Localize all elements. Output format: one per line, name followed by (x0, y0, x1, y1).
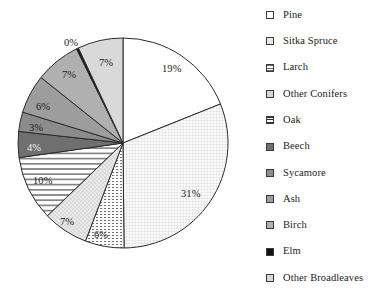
legend-label: Sycamore (283, 168, 326, 179)
slice-label-birch: 7% (62, 70, 76, 81)
legend-label: Sitka Spruce (283, 36, 338, 47)
legend-label: Pine (283, 10, 302, 21)
pie-chart: 19%31%6%7%10%4%3%6%7%0%7% PineSitka Spru… (0, 0, 379, 294)
swatch-ash-icon (266, 195, 274, 203)
legend-swatch-fill (267, 91, 273, 97)
legend-swatch-fill (267, 222, 273, 228)
slice-label-pine: 19% (162, 64, 182, 75)
slice-label-sitka-spruce: 31% (181, 189, 201, 200)
legend-swatch-fill (267, 38, 273, 44)
legend-item-oak[interactable]: Oak (266, 113, 301, 127)
swatch-sycamore-icon (266, 169, 274, 177)
legend-swatch-fill (267, 249, 273, 255)
slice-label-beech: 4% (27, 143, 41, 154)
legend-swatch-fill (267, 65, 273, 71)
legend-label: Larch (283, 62, 308, 73)
legend-item-sycamore[interactable]: Sycamore (266, 166, 326, 180)
legend-swatch-fill (267, 12, 273, 18)
swatch-other-broadleaves-icon (266, 274, 274, 282)
swatch-birch-icon (266, 221, 274, 229)
legend-item-sitka-spruce[interactable]: Sitka Spruce (266, 34, 338, 48)
chart-legend: PineSitka SpruceLarchOther ConifersOakBe… (266, 0, 379, 294)
slice-label-larch: 6% (94, 230, 108, 241)
legend-swatch-fill (267, 117, 273, 123)
legend-swatch-fill (267, 275, 273, 281)
swatch-elm-icon (266, 248, 274, 256)
slice-label-ash: 6% (36, 102, 50, 113)
legend-item-larch[interactable]: Larch (266, 61, 308, 75)
legend-item-beech[interactable]: Beech (266, 140, 310, 154)
slice-label-sycamore: 3% (29, 123, 43, 134)
legend-label: Elm (283, 246, 301, 257)
swatch-beech-icon (266, 143, 274, 151)
legend-item-other-broadleaves[interactable]: Other Broadleaves (266, 271, 363, 285)
legend-label: Other Broadleaves (283, 273, 363, 284)
legend-label: Other Conifers (283, 89, 347, 100)
pie-plot-area: 19%31%6%7%10%4%3%6%7%0%7% (0, 0, 244, 294)
legend-item-elm[interactable]: Elm (266, 245, 301, 259)
swatch-other-conifers-icon (266, 90, 274, 98)
legend-label: Oak (283, 115, 301, 126)
swatch-larch-icon (266, 64, 274, 72)
slice-label-other-conifers: 7% (60, 217, 74, 228)
slice-label-elm: 0% (64, 38, 78, 49)
pie-slices (18, 38, 228, 248)
slice-label-other-broadleaves: 7% (99, 58, 113, 69)
legend-item-birch[interactable]: Birch (266, 218, 307, 232)
swatch-sitka-spruce-icon (266, 37, 274, 45)
legend-swatch-fill (267, 144, 273, 150)
swatch-pine-icon (266, 11, 274, 19)
swatch-oak-icon (266, 116, 274, 124)
legend-swatch-fill (267, 196, 273, 202)
legend-label: Ash (283, 194, 300, 205)
legend-item-pine[interactable]: Pine (266, 8, 302, 22)
legend-item-other-conifers[interactable]: Other Conifers (266, 87, 347, 101)
legend-label: Birch (283, 220, 307, 231)
slice-label-oak: 10% (33, 176, 53, 187)
legend-swatch-fill (267, 170, 273, 176)
legend-label: Beech (283, 141, 310, 152)
legend-item-ash[interactable]: Ash (266, 192, 300, 206)
